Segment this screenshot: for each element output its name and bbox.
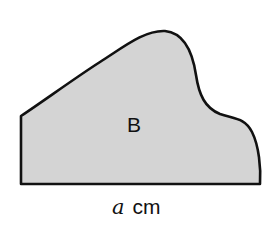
region-b-shape <box>21 31 260 184</box>
dimension-unit: cm <box>133 195 161 218</box>
dimension-label: a cm <box>112 195 161 219</box>
region-label: B <box>127 113 141 136</box>
shape-diagram: B a cm <box>0 0 268 241</box>
dimension-variable: a <box>112 195 125 219</box>
